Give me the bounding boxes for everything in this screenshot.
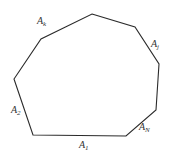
label-a-n: AN	[138, 121, 150, 134]
label-a-k: Ak	[36, 15, 47, 28]
polygon-outline	[14, 14, 159, 136]
label-a-2: A2	[10, 104, 21, 117]
label-a-1: A1	[78, 139, 89, 152]
label-a-j: Aj	[150, 38, 159, 51]
polygon-diagram: Ak Aj A2 AN A1	[0, 0, 171, 159]
